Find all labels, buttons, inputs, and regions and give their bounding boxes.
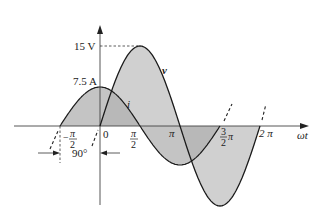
y-axis-arrow-icon <box>97 25 103 34</box>
tick-zero: 0 <box>103 128 109 140</box>
i-end-dash <box>224 104 232 121</box>
tick-half-pi-num: π <box>131 128 137 139</box>
sine-phase-diagram: 90° 15 V 7.5 A v i − π 2 0 π 2 π 3 2 π 2… <box>0 0 323 221</box>
tick-neg-half-pi-num: π <box>70 128 76 139</box>
x-axis-label: ωt <box>297 129 309 141</box>
phase-arrow-left-icon <box>53 151 60 156</box>
i-peak-label: 7.5 A <box>73 75 97 87</box>
phase-arrow-right-icon <box>100 151 107 156</box>
v-end-dash <box>262 104 266 120</box>
v-start-dash <box>92 130 98 146</box>
tick-three-half-pi-den: 2 <box>221 137 226 148</box>
tick-neg-half-pi-den: 2 <box>70 139 75 150</box>
v-peak-label: 15 V <box>74 40 96 52</box>
i-curve-label: i <box>127 98 130 110</box>
tick-half-pi-den: 2 <box>131 139 136 150</box>
tick-neg-half-pi-sign: − <box>63 132 69 143</box>
tick-pi: π <box>169 127 175 139</box>
i-start-dash <box>50 131 58 149</box>
tick-three-half-pi-num: 3 <box>221 126 226 137</box>
tick-two-pi: 2 π <box>259 127 273 139</box>
v-curve-label: v <box>162 64 167 76</box>
